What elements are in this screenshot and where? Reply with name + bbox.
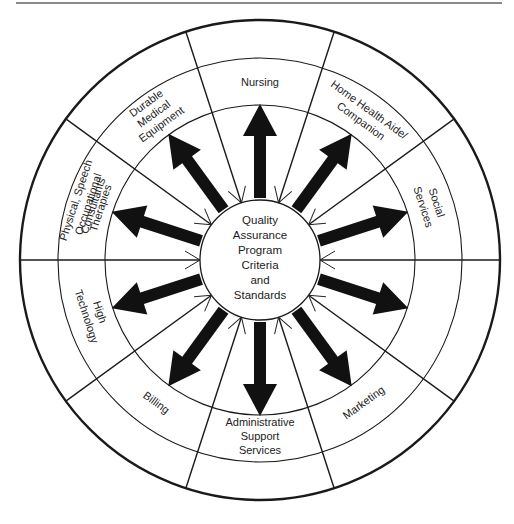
label-nursing: Nursing xyxy=(241,76,279,88)
center-line: Standards xyxy=(234,289,287,301)
arrow-consultants xyxy=(314,263,414,324)
label-social-services: Social Services xyxy=(411,181,449,230)
arrow-billing xyxy=(155,300,238,396)
center-line: Assurance xyxy=(233,229,287,241)
center-line: and xyxy=(250,274,269,286)
label-dme: Durable Medical Equipment xyxy=(121,83,186,145)
label-line: Administrative xyxy=(225,416,294,428)
arrow-nursing xyxy=(243,104,277,198)
label-line: Support xyxy=(241,430,280,442)
arrow-admin-support xyxy=(243,322,277,416)
label-home-health: Home Health Aide/ Companion xyxy=(320,78,410,153)
label-marketing: Marketing xyxy=(340,383,386,421)
label-admin-support: Administrative Support Services xyxy=(225,416,294,456)
label-line: Marketing xyxy=(340,383,386,421)
arrow-home-health xyxy=(283,124,366,220)
arrow-marketing xyxy=(283,300,366,396)
arrow-dme xyxy=(155,124,238,220)
arrow-high-technology xyxy=(106,263,206,324)
center-line: Quality xyxy=(242,214,278,226)
quality-assurance-wheel-diagram: Quality Assurance Program Criteria and S… xyxy=(0,0,514,524)
arrow-social-services xyxy=(314,196,414,257)
label-line: Services xyxy=(239,444,282,456)
label-billing: Billing xyxy=(141,389,172,416)
arrow-therapies xyxy=(106,196,206,257)
label-line: Nursing xyxy=(241,76,279,88)
label-line: Billing xyxy=(141,389,172,416)
center-line: Criteria xyxy=(241,259,279,271)
center-line: Program xyxy=(238,244,282,256)
